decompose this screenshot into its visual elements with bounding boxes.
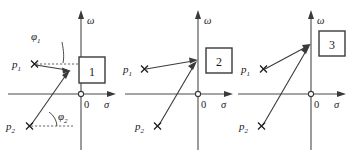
pole-label-p1: p1	[11, 58, 21, 73]
omega-axis-arrowhead	[195, 10, 201, 19]
panel-1: 1 p1 p2 φ1 φ2 ω σ 0	[0, 0, 118, 158]
origin-label: 0	[84, 99, 89, 110]
pole-label-p1: p1	[240, 63, 250, 78]
axis-label-omega: ω	[204, 15, 211, 26]
panel-3-canvas: 3 p1 p2 ω σ 0	[230, 0, 348, 158]
origin-marker	[195, 91, 200, 96]
pole-marker-p2	[154, 123, 161, 130]
axis-label-sigma: σ	[104, 99, 110, 110]
pole-label-p2: p2	[238, 120, 249, 135]
pole-label-p1: p1	[122, 63, 132, 78]
pole-marker-p2	[258, 123, 265, 130]
box-3-label: 3	[329, 38, 335, 52]
axis-label-omega: ω	[87, 15, 94, 26]
angle-label-phi1: φ1	[31, 30, 41, 45]
panel-2-canvas: 2 p1 p2 ω σ 0	[117, 0, 235, 158]
pole-label-p2: p2	[5, 120, 16, 135]
box-1-label: 1	[89, 65, 95, 79]
origin-marker	[308, 91, 313, 96]
omega-axis-arrowhead	[78, 10, 84, 19]
vector-p1-arrowhead	[189, 58, 198, 64]
pole-zero-diagram-figure: 1 p1 p2 φ1 φ2 ω σ 0	[0, 0, 353, 158]
vector-p2-to-test-point	[263, 51, 306, 125]
angle-label-phi2: φ2	[58, 110, 68, 125]
origin-label: 0	[201, 99, 206, 110]
vector-p1-to-test-point	[146, 61, 193, 69]
sigma-axis-arrowhead	[107, 91, 116, 97]
panel-1-canvas: 1 p1 p2 φ1 φ2 ω σ 0	[0, 0, 118, 158]
vector-p2-to-test-point	[159, 67, 193, 125]
axis-label-sigma: σ	[334, 99, 340, 110]
axis-label-omega: ω	[317, 15, 324, 26]
phi1-arc	[62, 42, 64, 63]
omega-axis-arrowhead	[308, 10, 314, 19]
phi2-arc	[49, 112, 57, 126]
box-2-label: 2	[216, 55, 222, 69]
axis-label-sigma: σ	[221, 99, 227, 110]
pole-label-p2: p2	[134, 120, 145, 135]
sigma-axis-arrowhead	[337, 91, 346, 97]
panel-2: 2 p1 p2 ω σ 0	[117, 0, 235, 158]
panel-3: 3 p1 p2 ω σ 0	[230, 0, 348, 158]
vector-p1-to-test-point	[265, 47, 306, 69]
origin-marker	[78, 91, 83, 96]
origin-label: 0	[314, 99, 319, 110]
